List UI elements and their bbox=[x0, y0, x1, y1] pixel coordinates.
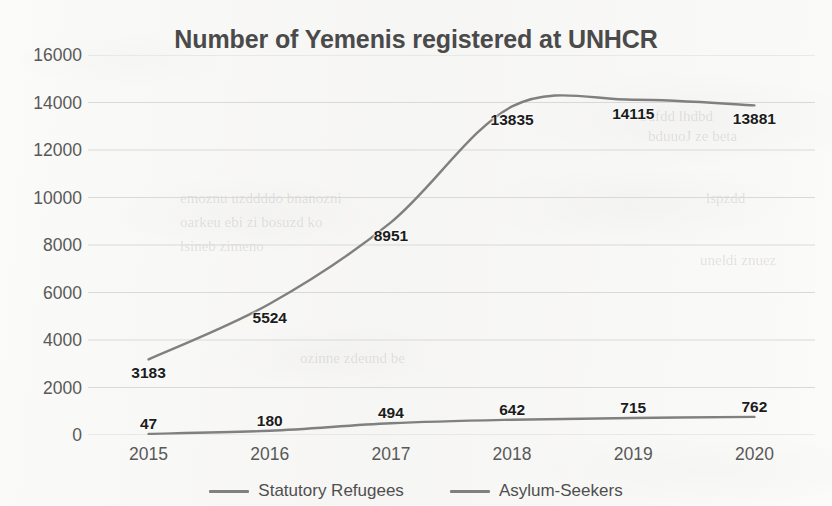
data-point-label: 5524 bbox=[253, 309, 287, 327]
data-point-label: 3183 bbox=[131, 364, 165, 382]
y-axis-tick-label: 8000 bbox=[8, 235, 82, 256]
y-axis-tick-label: 4000 bbox=[8, 330, 82, 351]
y-axis: 1600014000120001000080006000400020000 bbox=[0, 0, 82, 506]
y-axis-tick-label: 14000 bbox=[8, 92, 82, 113]
data-point-label: 14115 bbox=[612, 105, 654, 123]
data-point-label: 8951 bbox=[374, 227, 408, 245]
chart-legend: Statutory RefugeesAsylum-Seekers bbox=[0, 481, 832, 501]
x-axis-tick-label: 2018 bbox=[467, 444, 557, 465]
y-axis-tick-label: 0 bbox=[8, 425, 82, 446]
legend-item[interactable]: Statutory Refugees bbox=[209, 481, 404, 501]
x-axis-tick-label: 2017 bbox=[346, 444, 436, 465]
y-axis-tick-label: 12000 bbox=[8, 140, 82, 161]
x-axis-tick-label: 2019 bbox=[588, 444, 678, 465]
data-point-label: 47 bbox=[140, 415, 157, 433]
legend-label: Statutory Refugees bbox=[258, 481, 404, 501]
data-point-label: 715 bbox=[620, 399, 646, 417]
data-point-label: 13835 bbox=[491, 111, 534, 129]
data-point-label: 642 bbox=[499, 401, 525, 419]
plot-area: 3183552489511383514115138814718049464271… bbox=[88, 55, 815, 435]
y-axis-tick-label: 6000 bbox=[8, 282, 82, 303]
y-axis-tick-label: 16000 bbox=[8, 45, 82, 66]
legend-line-swatch bbox=[209, 490, 249, 493]
chart-title: Number of Yemenis registered at UNHCR bbox=[0, 25, 832, 54]
y-axis-tick-label: 10000 bbox=[8, 187, 82, 208]
chart-page: bdfdd lhdbd bduuoJ ze beta emoznu uzdddd… bbox=[0, 0, 832, 506]
gridlines bbox=[88, 55, 815, 435]
legend-label: Asylum-Seekers bbox=[499, 481, 623, 501]
data-point-label: 180 bbox=[257, 412, 283, 430]
x-axis-tick-label: 2016 bbox=[225, 444, 315, 465]
x-axis-tick-label: 2015 bbox=[104, 444, 194, 465]
chart-canvas bbox=[88, 55, 815, 435]
series-line bbox=[149, 417, 755, 434]
legend-item[interactable]: Asylum-Seekers bbox=[450, 481, 623, 501]
data-point-label: 762 bbox=[741, 398, 767, 416]
series-line bbox=[149, 95, 755, 359]
x-axis-tick-label: 2020 bbox=[709, 444, 799, 465]
legend-line-swatch bbox=[450, 490, 490, 493]
data-point-label: 13881 bbox=[733, 110, 776, 128]
data-point-label: 494 bbox=[378, 404, 404, 422]
y-axis-tick-label: 2000 bbox=[8, 377, 82, 398]
series-lines bbox=[149, 95, 755, 434]
